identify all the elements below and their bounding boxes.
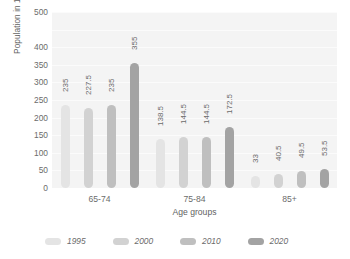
bar[interactable] bbox=[274, 174, 283, 188]
bar[interactable] bbox=[61, 105, 70, 188]
bar-slot: 33 bbox=[251, 12, 260, 188]
x-axis-title: Age groups bbox=[52, 207, 337, 217]
legend-label: 2020 bbox=[270, 236, 289, 246]
bar-slot: 227.5 bbox=[84, 12, 93, 188]
bar-value-label: 49.5 bbox=[297, 142, 306, 158]
y-axis-tick-label: 400 bbox=[34, 43, 48, 52]
legend-item[interactable]: 1995 bbox=[45, 236, 113, 246]
bar[interactable] bbox=[107, 105, 116, 188]
bar-value-label: 40.5 bbox=[274, 145, 283, 161]
legend-item[interactable]: 2020 bbox=[248, 236, 316, 246]
bar-slot: 53.5 bbox=[320, 12, 329, 188]
bar[interactable] bbox=[130, 63, 139, 188]
bar[interactable] bbox=[320, 169, 329, 188]
bar-value-label: 33 bbox=[251, 154, 260, 163]
bar-value-label: 138.5 bbox=[156, 106, 165, 126]
y-axis-tick-label: 100 bbox=[34, 148, 48, 157]
bar-slot: 172.5 bbox=[225, 12, 234, 188]
bar-value-label: 227.5 bbox=[84, 75, 93, 95]
bar[interactable] bbox=[297, 171, 306, 188]
legend-swatch-icon bbox=[180, 238, 196, 245]
legend-label: 1995 bbox=[67, 236, 86, 246]
y-axis-tick-label: 350 bbox=[34, 60, 48, 69]
bar-slot: 235 bbox=[61, 12, 70, 188]
y-axis-tick-label: 250 bbox=[34, 96, 48, 105]
bar-value-label: 144.5 bbox=[179, 104, 188, 124]
bar-slot: 144.5 bbox=[202, 12, 211, 188]
plot-area: 235227.5235355138.5144.5144.5172.53340.5… bbox=[52, 12, 337, 188]
legend-label: 2000 bbox=[135, 236, 154, 246]
legend-swatch-icon bbox=[248, 238, 264, 245]
bar[interactable] bbox=[84, 108, 93, 188]
bar-slot: 49.5 bbox=[297, 12, 306, 188]
bar-chart: Population in 1000s 50040035030025020015… bbox=[0, 0, 350, 259]
bar-slot: 40.5 bbox=[274, 12, 283, 188]
x-axis-tick-label: 75-84 bbox=[147, 192, 242, 206]
bar-slot: 144.5 bbox=[179, 12, 188, 188]
legend-item[interactable]: 2000 bbox=[113, 236, 181, 246]
legend-item[interactable]: 2010 bbox=[180, 236, 248, 246]
chart-legend: 1995200020102020 bbox=[45, 234, 315, 248]
x-axis-tick-label: 85+ bbox=[242, 192, 337, 206]
bar-value-label: 172.5 bbox=[225, 94, 234, 114]
bar-value-label: 235 bbox=[61, 79, 70, 92]
bar-group: 138.5144.5144.5172.5 bbox=[147, 12, 242, 188]
y-axis-tick-label: 150 bbox=[34, 131, 48, 140]
bar-value-label: 355 bbox=[130, 37, 139, 50]
bar[interactable] bbox=[156, 139, 165, 188]
legend-label: 2010 bbox=[202, 236, 221, 246]
bar-slot: 355 bbox=[130, 12, 139, 188]
bar-group: 235227.5235355 bbox=[52, 12, 147, 188]
bar-group: 3340.549.553.5 bbox=[242, 12, 337, 188]
legend-swatch-icon bbox=[45, 238, 61, 245]
y-axis-tick-label: 300 bbox=[34, 78, 48, 87]
bar[interactable] bbox=[251, 176, 260, 188]
bar-slot: 235 bbox=[107, 12, 116, 188]
bar-value-label: 144.5 bbox=[202, 104, 211, 124]
bar[interactable] bbox=[202, 137, 211, 188]
x-axis-tick-label: 65-74 bbox=[52, 192, 147, 206]
legend-swatch-icon bbox=[113, 238, 129, 245]
bar-slot: 138.5 bbox=[156, 12, 165, 188]
bar-value-label: 235 bbox=[107, 79, 116, 92]
y-axis-tick-label: 200 bbox=[34, 113, 48, 122]
y-axis-tick-label: 50 bbox=[39, 166, 48, 175]
x-axis-tick-labels: 65-7475-8485+ bbox=[52, 192, 337, 206]
bar-value-label: 53.5 bbox=[320, 141, 329, 157]
bar[interactable] bbox=[225, 127, 234, 188]
y-axis-tick-labels: 500400350300250200150100500 bbox=[18, 12, 48, 188]
y-axis-tick-label: 0 bbox=[43, 184, 48, 193]
bar-groups: 235227.5235355138.5144.5144.5172.53340.5… bbox=[52, 12, 337, 188]
bar[interactable] bbox=[179, 137, 188, 188]
y-axis-tick-label: 500 bbox=[34, 8, 48, 17]
